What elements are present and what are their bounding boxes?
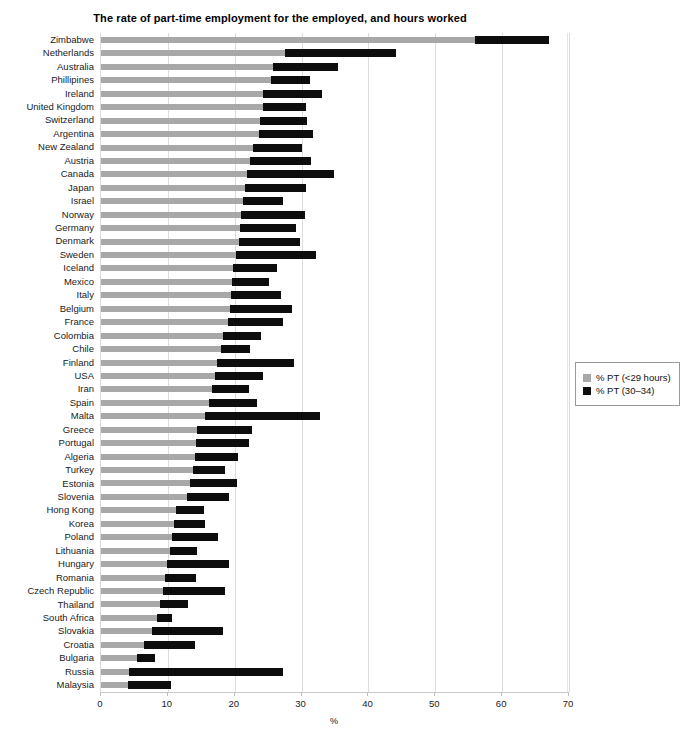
x-tick-label-40: 40 xyxy=(347,698,387,709)
bar-segment-part-time-under-29 xyxy=(101,615,157,621)
bar-segment-part-time-30-34 xyxy=(236,251,316,259)
bar-segment-part-time-30-34 xyxy=(263,103,306,111)
bar-segment-part-time-under-29 xyxy=(101,373,215,379)
bar-segment-part-time-under-29 xyxy=(101,185,245,191)
bar-row xyxy=(101,141,567,154)
bar-segment-part-time-under-29 xyxy=(101,50,285,56)
bar-segment-part-time-under-29 xyxy=(101,655,137,661)
x-tick-40 xyxy=(367,692,368,696)
bar-segment-part-time-under-29 xyxy=(101,454,195,460)
bar-segment-part-time-30-34 xyxy=(128,681,171,689)
bar-segment-part-time-30-34 xyxy=(240,224,296,232)
bar-row xyxy=(101,87,567,100)
bar-segment-part-time-under-29 xyxy=(101,306,230,312)
bar-segment-part-time-under-29 xyxy=(101,252,236,258)
bar-segment-part-time-30-34 xyxy=(273,63,339,71)
bar-segment-part-time-under-29 xyxy=(101,534,172,540)
bar-segment-part-time-under-29 xyxy=(101,64,273,70)
bar-row xyxy=(101,248,567,261)
y-axis-label-slovenia: Slovenia xyxy=(0,492,94,502)
bar-segment-part-time-30-34 xyxy=(239,238,301,246)
bar-segment-part-time-under-29 xyxy=(101,91,263,97)
y-axis-label-finland: Finland xyxy=(0,358,94,368)
y-axis-label-south-africa: South Africa xyxy=(0,613,94,623)
y-axis-label-bulgaria: Bulgaria xyxy=(0,653,94,663)
x-tick-label-20: 20 xyxy=(214,698,254,709)
bar-row xyxy=(101,235,567,248)
bar-segment-part-time-30-34 xyxy=(197,426,252,434)
y-axis-label-united-kingdom: United Kingdom xyxy=(0,102,94,112)
bar-row xyxy=(101,544,567,557)
bar-segment-part-time-under-29 xyxy=(101,37,475,43)
legend-item: % PT (30–34) xyxy=(583,385,671,396)
y-axis-label-israel: Israel xyxy=(0,196,94,206)
bar-segment-part-time-30-34 xyxy=(196,439,249,447)
y-axis-label-italy: Italy xyxy=(0,290,94,300)
bar-segment-part-time-30-34 xyxy=(285,49,396,57)
y-axis-label-new-zealand: New Zealand xyxy=(0,142,94,152)
bar-segment-part-time-under-29 xyxy=(101,265,233,271)
y-axis-label-iceland: Iceland xyxy=(0,263,94,273)
y-axis-label-malaysia: Malaysia xyxy=(0,680,94,690)
bar-segment-part-time-under-29 xyxy=(101,198,243,204)
bar-segment-part-time-30-34 xyxy=(475,36,549,44)
bar-segment-part-time-under-29 xyxy=(101,507,176,513)
bar-row xyxy=(101,530,567,543)
bar-segment-part-time-30-34 xyxy=(263,90,321,98)
bar-segment-part-time-under-29 xyxy=(101,467,193,473)
bar-row xyxy=(101,60,567,73)
bar-segment-part-time-30-34 xyxy=(253,144,301,152)
bar-segment-part-time-30-34 xyxy=(160,600,188,608)
bar-segment-part-time-30-34 xyxy=(193,466,226,474)
bar-row xyxy=(101,329,567,342)
y-axis-label-poland: Poland xyxy=(0,532,94,542)
bar-segment-part-time-30-34 xyxy=(172,533,218,541)
bar-row xyxy=(101,369,567,382)
bar-segment-part-time-under-29 xyxy=(101,588,163,594)
bar-segment-part-time-under-29 xyxy=(101,145,253,151)
bar-segment-part-time-under-29 xyxy=(101,601,160,607)
bar-segment-part-time-30-34 xyxy=(215,372,264,380)
bar-segment-part-time-30-34 xyxy=(230,305,292,313)
bar-segment-part-time-under-29 xyxy=(101,171,247,177)
bar-row xyxy=(101,517,567,530)
bar-row xyxy=(101,584,567,597)
y-axis-label-sweden: Sweden xyxy=(0,250,94,260)
bar-row xyxy=(101,261,567,274)
y-axis-label-ireland: Ireland xyxy=(0,89,94,99)
bar-segment-part-time-under-29 xyxy=(101,413,205,419)
bar-segment-part-time-under-29 xyxy=(101,628,152,634)
x-axis-title: % xyxy=(100,716,568,726)
bar-segment-part-time-under-29 xyxy=(101,480,190,486)
y-axis-label-zimbabwe: Zimbabwe xyxy=(0,35,94,45)
bar-segment-part-time-under-29 xyxy=(101,386,212,392)
x-tick-60 xyxy=(501,692,502,696)
bar-row xyxy=(101,611,567,624)
y-axis-label-denmark: Denmark xyxy=(0,236,94,246)
bar-segment-part-time-30-34 xyxy=(205,412,319,420)
bar-row xyxy=(101,221,567,234)
legend-swatch-black xyxy=(583,387,591,395)
bar-row xyxy=(101,288,567,301)
bar-segment-part-time-under-29 xyxy=(101,279,232,285)
y-axis-label-korea: Korea xyxy=(0,519,94,529)
plot-area xyxy=(100,33,568,692)
y-axis-label-spain: Spain xyxy=(0,398,94,408)
bar-row xyxy=(101,382,567,395)
bar-segment-part-time-30-34 xyxy=(228,318,283,326)
bar-row xyxy=(101,194,567,207)
bar-segment-part-time-30-34 xyxy=(190,479,237,487)
y-axis-label-iran: Iran xyxy=(0,384,94,394)
x-tick-0 xyxy=(100,692,101,696)
y-axis-label-greece: Greece xyxy=(0,425,94,435)
bar-row xyxy=(101,127,567,140)
bar-segment-part-time-under-29 xyxy=(101,158,250,164)
y-axis-label-turkey: Turkey xyxy=(0,465,94,475)
gridline-70 xyxy=(569,33,570,692)
bar-segment-part-time-30-34 xyxy=(259,130,313,138)
x-tick-20 xyxy=(234,692,235,696)
y-axis-category-labels: ZimbabweNetherlandsAustraliaPhillipinesI… xyxy=(0,33,94,692)
bar-segment-part-time-under-29 xyxy=(101,575,165,581)
bar-segment-part-time-30-34 xyxy=(231,291,280,299)
bar-segment-part-time-30-34 xyxy=(163,587,225,595)
